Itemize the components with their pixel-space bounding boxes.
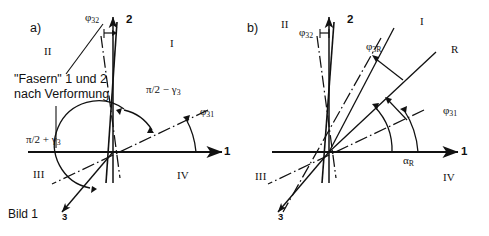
panel-a-angle-pi-plus-gamma-subscript: 3 [57,138,61,147]
panel-b-dashdot-31 [268,110,424,184]
panel-a-angle-pi-minus-gamma-subscript: 3 [177,88,181,97]
panel-b-angle-phi3R: φ3R [366,41,382,54]
panel-b-axis-label-R: R [451,44,459,55]
panel-a-axis-label-2: 2 [126,14,132,26]
panel-a-tag: a) [30,22,41,35]
panel-b-quadrant-IV: IV [443,172,455,183]
fiber-note-line-2: nach Verformung [14,87,109,101]
panel-a-arc-pi-minus-gamma [124,110,152,130]
fiber-note-line-1: "Fasern" 1 und 2 [14,72,107,86]
panel-a-quadrant-III: III [33,169,45,180]
panel-b-graphics [268,17,458,212]
panel-a-quadrant-I: I [170,38,174,49]
panel-b-arc-phi31 [404,110,418,152]
panel-a-axis-label-3: 3 [62,212,67,222]
panel-b-angle-phi32: φ32 [299,27,313,40]
panel-a-angle-phi31: φ31 [200,106,214,119]
diagram-canvas [0,0,489,236]
panel-a-angle-phi32-subscript: 32 [91,16,99,25]
panel-a-angle-phi32: φ32 [85,12,99,25]
panel-b-ray-upper [329,28,394,152]
panel-a-angle-phi31-subscript: 31 [206,110,214,119]
panel-b-quadrant-II: II [281,19,289,30]
panel-b-angle-alphaR: αR [403,155,414,168]
panel-b-axis-label-1: 1 [461,146,467,158]
panel-a-quadrant-IV: IV [177,170,189,181]
panel-b-phi3R-measure [376,59,403,80]
panel-a-arc-pi-plus-gamma-head1 [91,186,97,193]
panel-b-axis-label-2: 2 [347,14,353,26]
panel-b-angle-phi3R-subscript: 3R [372,45,381,54]
panel-a-axis-label-1: 1 [224,146,230,158]
panel-b-quadrant-III: III [255,171,267,182]
panel-a-graphics [28,17,222,212]
panel-a-leader-phi32 [66,24,103,74]
panel-a-angle-pi-minus-gamma-symbol: π/2 − γ [146,83,177,95]
panel-b-angle-phi32-subscript: 32 [305,31,313,40]
panel-a-arc-pi-plus-gamma-head2 [116,108,122,115]
panel-a-arc-phi31 [186,119,196,152]
panel-b-quadrant-I: I [420,16,424,27]
panel-b-dashdot-3R [283,38,381,212]
panel-a-angle-pi-plus-gamma-symbol: π/2 + γ [26,133,57,145]
panel-a-arc-pi-minus-gamma-head [147,127,154,133]
panel-b-tag: b) [247,22,258,35]
figure-root: a) II I III IV 2 1 3 φ32 φ31 π/2 − γ3 π/… [0,0,489,236]
figure-caption: Bild 1 [8,208,38,220]
panel-b-angle-alphaR-subscript: R [409,159,414,168]
panel-a-angle-pi-plus-gamma: π/2 + γ3 [26,134,61,147]
panel-b-axis-label-3: 3 [278,212,283,222]
panel-a-angle-pi-minus-gamma: π/2 − γ3 [146,84,181,97]
panel-b-angle-phi31-subscript: 31 [449,109,457,118]
panel-a-quadrant-II: II [44,46,52,57]
panel-b-angle-phi31: φ31 [443,105,457,118]
panel-b-arc-phi31-head [400,106,407,113]
